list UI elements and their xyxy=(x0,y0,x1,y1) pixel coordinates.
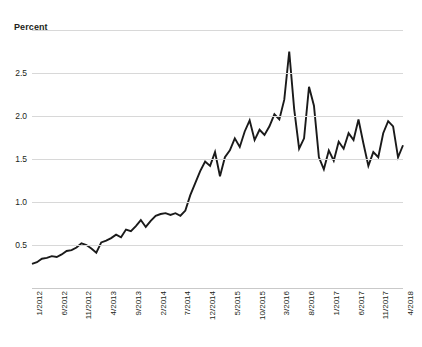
x-tick-label-5-2015: 5/2015 xyxy=(234,291,242,315)
y-tick-label-2: 2.0 xyxy=(15,112,27,121)
gridline-y-2.5 xyxy=(32,73,403,74)
x-tick-label-10-2015: 10/2015 xyxy=(259,291,267,320)
y-tick-label-1.5: 1.5 xyxy=(15,155,27,164)
gridline-y-2 xyxy=(32,116,403,117)
y-tick-label-0.5: 0.5 xyxy=(15,241,27,250)
x-tick-label-1-2017: 1/2017 xyxy=(333,291,341,315)
x-tick-label-1-2012: 1/2012 xyxy=(36,291,44,315)
gridline-y-1.5 xyxy=(32,159,403,160)
x-tick-label-2-2014: 2/2014 xyxy=(160,291,168,315)
x-tick-label-11-2012: 11/2012 xyxy=(85,291,93,319)
y-axis-tick-labels: 2.52.01.51.00.5 xyxy=(0,30,27,288)
series-line-percent xyxy=(32,52,403,264)
x-tick-label-6-2017: 6/2017 xyxy=(358,291,366,315)
x-tick-label-12-2014: 12/2014 xyxy=(209,291,217,320)
plot-area xyxy=(32,30,403,288)
x-tick-label-6-2012: 6/2012 xyxy=(61,291,69,315)
y-tick-label-1: 1.0 xyxy=(15,198,27,207)
y-tick-label-2.5: 2.5 xyxy=(15,69,27,78)
x-tick-label-8-2016: 8/2016 xyxy=(308,291,316,315)
gridline-y-3 xyxy=(32,30,403,31)
percent-line-chart: Percent 2.52.01.51.00.5 1/20126/201211/2… xyxy=(0,0,422,347)
x-tick-label-4-2018: 4/2018 xyxy=(407,291,415,315)
gridline-y-1 xyxy=(32,202,403,203)
gridline-y-0.5 xyxy=(32,245,403,246)
x-tick-label-11-2017: 11/2017 xyxy=(382,291,390,319)
x-axis-tick-labels: 1/20126/201211/20124/20139/20132/20147/2… xyxy=(32,289,403,347)
x-tick-label-7-2014: 7/2014 xyxy=(184,291,192,315)
x-tick-label-3-2016: 3/2016 xyxy=(283,291,291,315)
x-tick-label-9-2013: 9/2013 xyxy=(135,291,143,315)
x-tick-label-4-2013: 4/2013 xyxy=(110,291,118,315)
